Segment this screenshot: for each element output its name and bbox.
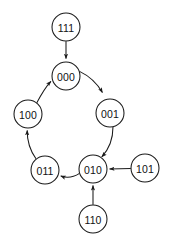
node-label-000: 000 [57,71,75,83]
edge-101-to-010 [110,168,131,169]
edge-010-to-011 [61,173,80,177]
node-label-110: 110 [84,214,101,226]
node-000[interactable]: 000 [52,62,80,90]
state-diagram-canvas: 111 000 100 001 011 010 [0,0,178,246]
node-001[interactable]: 001 [96,99,124,127]
edge-001-to-010 [102,127,113,157]
node-101[interactable]: 101 [131,154,159,182]
node-100[interactable]: 100 [14,100,42,128]
node-label-011: 011 [36,165,53,177]
node-label-101: 101 [136,163,154,175]
node-label-001: 001 [101,108,119,120]
edge-000-to-001 [79,71,102,92]
node-label-111: 111 [58,22,74,34]
state-transition-graph: 111 000 100 001 011 010 [0,0,178,246]
edge-011-to-100 [27,130,36,158]
node-group: 111 000 100 001 011 010 [14,13,159,233]
edge-100-to-000 [36,81,51,104]
node-011[interactable]: 011 [31,156,59,184]
node-111[interactable]: 111 [52,13,80,41]
node-label-010: 010 [84,164,102,176]
node-010[interactable]: 010 [79,155,107,183]
node-label-100: 100 [19,109,37,121]
node-110[interactable]: 110 [79,205,107,233]
